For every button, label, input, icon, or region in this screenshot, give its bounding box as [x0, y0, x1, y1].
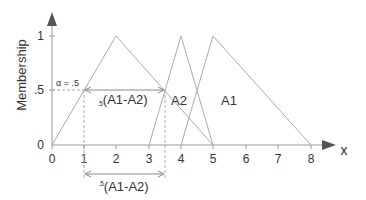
svg-text:1: 1	[37, 29, 44, 43]
svg-text:6: 6	[243, 152, 250, 166]
svg-text:8: 8	[308, 152, 315, 166]
svg-text:3: 3	[146, 152, 153, 166]
a1-label: A1	[221, 93, 237, 108]
upper-interval-label: .5(A1-A2)	[97, 92, 148, 107]
alpha-label: α = .5	[56, 78, 79, 88]
svg-text:2: 2	[113, 152, 120, 166]
x-axis-arrow-icon	[322, 140, 336, 150]
svg-text:0: 0	[37, 138, 44, 152]
svg-text:.5: .5	[34, 83, 44, 97]
a2-label: A2	[171, 93, 187, 108]
svg-text:5: 5	[210, 152, 217, 166]
x-axis-label: x	[341, 142, 348, 158]
a1-triangle	[181, 36, 311, 145]
y-axis-arrow-icon	[47, 12, 57, 26]
lower-interval-label: .5(A1-A2)	[98, 179, 149, 194]
svg-text:0: 0	[49, 152, 56, 166]
x-tick-labels: 0 1 2 3 4 5 6 7 8	[49, 152, 315, 166]
svg-text:4: 4	[178, 152, 185, 166]
y-axis-label: Membership	[14, 39, 29, 111]
y-tick-labels: 0 .5 1	[34, 29, 44, 152]
svg-text:1: 1	[81, 152, 88, 166]
fuzzy-membership-diagram: 0 1 2 3 4 5 6 7 8 0 .5 1 Membership x α …	[0, 0, 366, 200]
svg-text:7: 7	[275, 152, 282, 166]
x-axis	[52, 140, 336, 150]
lower-interval-arrow	[85, 171, 164, 177]
